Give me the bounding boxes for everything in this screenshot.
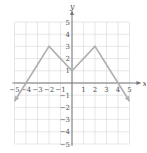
svg-text:5: 5	[127, 86, 131, 94]
svg-text:−3: −3	[32, 86, 42, 94]
svg-text:−3: −3	[60, 116, 70, 124]
axes	[13, 10, 142, 146]
svg-text:3: 3	[66, 43, 70, 51]
svg-text:2: 2	[66, 55, 70, 63]
svg-text:−1: −1	[60, 92, 70, 100]
function-graph: −5−4−3−2−112345−5−4−3−2−112345 x y	[0, 0, 146, 153]
y-axis-label: y	[69, 2, 75, 11]
svg-text:3: 3	[104, 86, 108, 94]
svg-text:−5: −5	[9, 86, 19, 94]
svg-text:1: 1	[81, 86, 85, 94]
svg-text:−5: −5	[60, 141, 70, 149]
svg-text:2: 2	[93, 86, 97, 94]
x-axis-label: x	[143, 79, 147, 88]
svg-text:−2: −2	[44, 86, 54, 94]
svg-text:4: 4	[66, 31, 71, 39]
svg-text:−2: −2	[60, 104, 70, 112]
svg-text:−4: −4	[60, 128, 71, 136]
svg-text:5: 5	[66, 19, 70, 27]
